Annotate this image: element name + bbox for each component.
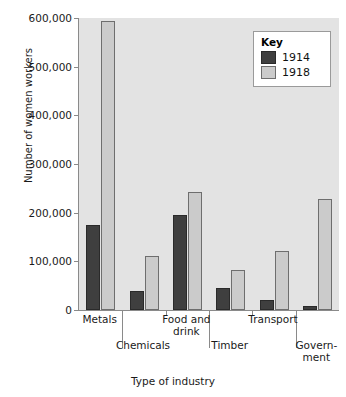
bar-metals-1918 — [101, 21, 115, 310]
chart-legend: Key 1914 1918 — [253, 31, 331, 87]
y-axis-tick-label: 600,000 — [29, 12, 72, 24]
x-axis-category-label-line: drink — [141, 326, 231, 338]
x-axis-category-label-line: Metals — [55, 314, 145, 326]
bar-food-and-drink-1918 — [188, 192, 202, 310]
y-axis-tick-label: 300,000 — [29, 158, 72, 170]
y-axis-tick — [74, 213, 79, 214]
bar-transport-1918 — [275, 251, 289, 310]
x-axis-category-label-line: ment — [271, 352, 346, 364]
x-axis-category-metals: Metals — [55, 314, 145, 326]
y-axis-tick — [74, 164, 79, 165]
bar-chart: Number of women workers 0100,000200,0003… — [0, 0, 346, 397]
x-axis-category-timber: Timber — [185, 340, 275, 352]
x-axis-title: Type of industry — [0, 375, 346, 387]
y-axis-tick — [74, 261, 79, 262]
y-axis-tick — [74, 310, 79, 311]
bar-government-1918 — [318, 199, 332, 310]
y-axis-tick-label: 400,000 — [29, 109, 72, 121]
bar-food-and-drink-1914 — [173, 215, 187, 310]
y-axis-tick-label: 500,000 — [29, 61, 72, 73]
bar-government-1914 — [303, 306, 317, 310]
x-axis-category-label-line: Chemicals — [98, 340, 188, 352]
bar-transport-1914 — [260, 300, 274, 310]
x-axis-category-food-and-drink: Food anddrink — [141, 314, 231, 337]
bar-timber-1914 — [216, 288, 230, 310]
y-axis-tick — [74, 18, 79, 19]
y-axis-tick — [74, 115, 79, 116]
x-axis-category-chemicals: Chemicals — [98, 340, 188, 352]
legend-swatch-1914-icon — [261, 51, 276, 64]
legend-entry-1918: 1918 — [261, 66, 324, 79]
bar-timber-1918 — [231, 270, 245, 310]
x-axis-category-label-line: Food and — [141, 314, 231, 326]
bar-metals-1914 — [86, 225, 100, 310]
x-axis-category-label-line: Govern- — [271, 340, 346, 352]
legend-label-1918: 1918 — [282, 66, 310, 79]
legend-title: Key — [261, 36, 324, 48]
x-axis-category-label-line: Transport — [228, 314, 318, 326]
legend-swatch-1918-icon — [261, 66, 276, 79]
y-axis-tick-label: 100,000 — [29, 255, 72, 267]
y-axis-tick — [74, 67, 79, 68]
x-axis-category-transport: Transport — [228, 314, 318, 326]
x-axis-category-government: Govern-ment — [271, 340, 346, 363]
bar-chemicals-1914 — [130, 291, 144, 310]
y-axis-tick-label: 200,000 — [29, 207, 72, 219]
legend-label-1914: 1914 — [282, 51, 310, 64]
x-axis-category-label-line: Timber — [185, 340, 275, 352]
legend-entry-1914: 1914 — [261, 51, 324, 64]
bar-chemicals-1918 — [145, 256, 159, 310]
